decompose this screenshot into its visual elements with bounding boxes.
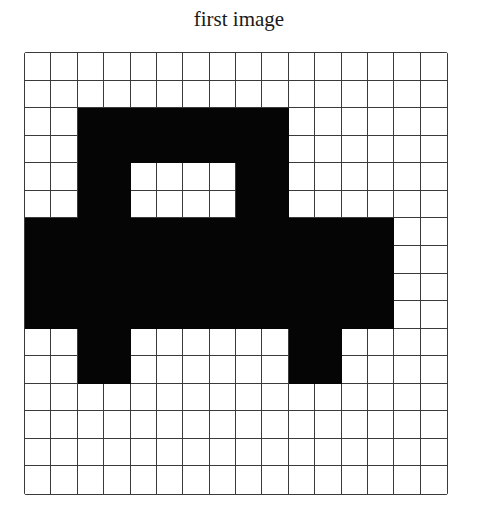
grid-cell-empty	[236, 53, 262, 81]
pixel-grid	[24, 52, 448, 495]
grid-cell-empty	[315, 466, 341, 494]
grid-cell-filled	[51, 246, 77, 274]
grid-cell-filled	[210, 218, 236, 246]
grid-cell-filled	[262, 274, 288, 302]
grid-cell-empty	[289, 384, 315, 412]
grid-cell-empty	[25, 163, 51, 191]
grid-cell-empty	[25, 108, 51, 136]
grid-cell-empty	[25, 136, 51, 164]
grid-cell-empty	[289, 439, 315, 467]
grid-cell-filled	[131, 108, 157, 136]
grid-cell-empty	[25, 411, 51, 439]
grid-cell-empty	[368, 53, 394, 81]
grid-cell-empty	[289, 163, 315, 191]
grid-cell-empty	[183, 439, 209, 467]
grid-cell-filled	[289, 218, 315, 246]
grid-cell-filled	[104, 246, 130, 274]
grid-cell-empty	[289, 108, 315, 136]
grid-cell-empty	[236, 466, 262, 494]
grid-cell-empty	[183, 163, 209, 191]
grid-cell-empty	[342, 81, 368, 109]
grid-cell-empty	[315, 191, 341, 219]
grid-cell-empty	[51, 384, 77, 412]
grid-cell-empty	[183, 329, 209, 357]
grid-cell-empty	[262, 53, 288, 81]
grid-cell-empty	[289, 81, 315, 109]
grid-cell-empty	[368, 384, 394, 412]
grid-cell-empty	[262, 439, 288, 467]
grid-cell-filled	[51, 274, 77, 302]
grid-cell-filled	[104, 218, 130, 246]
grid-cell-empty	[131, 81, 157, 109]
grid-cell-empty	[394, 411, 420, 439]
grid-cell-filled	[236, 163, 262, 191]
grid-cell-empty	[394, 439, 420, 467]
grid-cell-empty	[183, 384, 209, 412]
grid-cell-empty	[394, 274, 420, 302]
grid-cell-empty	[394, 108, 420, 136]
grid-cell-filled	[342, 246, 368, 274]
grid-cell-filled	[25, 246, 51, 274]
grid-cell-empty	[25, 191, 51, 219]
grid-cell-filled	[157, 218, 183, 246]
grid-cell-empty	[394, 163, 420, 191]
grid-cell-empty	[25, 384, 51, 412]
grid-cell-filled	[157, 246, 183, 274]
grid-cell-empty	[78, 439, 104, 467]
grid-cell-filled	[157, 301, 183, 329]
grid-cell-empty	[368, 108, 394, 136]
grid-cell-filled	[104, 274, 130, 302]
grid-cell-empty	[289, 191, 315, 219]
grid-cell-filled	[25, 218, 51, 246]
grid-cell-filled	[78, 329, 104, 357]
grid-cell-filled	[368, 246, 394, 274]
grid-cell-empty	[394, 466, 420, 494]
grid-cell-empty	[421, 53, 447, 81]
grid-cell-empty	[342, 466, 368, 494]
grid-cell-empty	[25, 81, 51, 109]
grid-cell-filled	[262, 191, 288, 219]
grid-cell-empty	[236, 81, 262, 109]
grid-cell-filled	[131, 274, 157, 302]
grid-cell-empty	[157, 53, 183, 81]
grid-cell-empty	[236, 411, 262, 439]
grid-cell-empty	[262, 466, 288, 494]
grid-cell-empty	[131, 411, 157, 439]
grid-cell-filled	[236, 108, 262, 136]
grid-cell-empty	[236, 439, 262, 467]
grid-cell-filled	[315, 329, 341, 357]
grid-cell-filled	[342, 274, 368, 302]
grid-cell-filled	[78, 136, 104, 164]
grid-cell-empty	[51, 81, 77, 109]
grid-cell-empty	[210, 356, 236, 384]
grid-cell-empty	[131, 356, 157, 384]
grid-cell-filled	[78, 163, 104, 191]
grid-cell-empty	[394, 329, 420, 357]
grid-cell-filled	[183, 218, 209, 246]
grid-cell-filled	[78, 218, 104, 246]
grid-cell-empty	[51, 163, 77, 191]
grid-cell-filled	[78, 301, 104, 329]
grid-cell-empty	[342, 108, 368, 136]
grid-cell-empty	[421, 246, 447, 274]
grid-cell-empty	[315, 439, 341, 467]
grid-cell-filled	[210, 301, 236, 329]
grid-cell-filled	[368, 218, 394, 246]
grid-cell-filled	[131, 218, 157, 246]
grid-cell-filled	[78, 108, 104, 136]
grid-cell-filled	[25, 274, 51, 302]
grid-cell-empty	[289, 466, 315, 494]
grid-cell-empty	[421, 329, 447, 357]
grid-cell-empty	[25, 466, 51, 494]
grid-cell-empty	[315, 108, 341, 136]
grid-cell-filled	[262, 246, 288, 274]
grid-cell-empty	[25, 329, 51, 357]
grid-cell-empty	[51, 191, 77, 219]
grid-cell-empty	[131, 329, 157, 357]
grid-cell-empty	[131, 466, 157, 494]
grid-cell-empty	[131, 191, 157, 219]
grid-cell-empty	[289, 136, 315, 164]
grid-cell-empty	[421, 163, 447, 191]
grid-cell-empty	[131, 163, 157, 191]
grid-cell-filled	[368, 274, 394, 302]
